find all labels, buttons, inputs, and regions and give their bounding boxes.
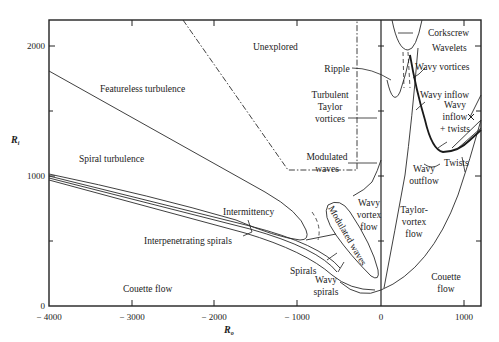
label-wavelets: Wavelets	[432, 43, 467, 53]
label-interpenetrating-spirals: Interpenetrating spirals	[144, 236, 232, 246]
label-spiral-turbulence: Spiral turbulence	[79, 154, 144, 164]
label-couette-flow-right: flow	[437, 284, 455, 294]
label-corkscrew: Corkscrew	[428, 28, 469, 38]
interpenetrating-line-3	[49, 180, 375, 290]
x-tick-label: − 1000	[284, 312, 310, 322]
y-tick-label: 2000	[27, 41, 46, 51]
label-wavy-vortices: Wavy vortices	[415, 62, 470, 72]
label-ripple: Ripple	[324, 64, 349, 74]
label-wavy-outflow: outflow	[409, 176, 439, 186]
label-taylor-vortex-flow: flow	[405, 229, 423, 239]
x-tick-label: − 3000	[119, 312, 145, 322]
label-wavy-inflow-twists: inflow	[443, 112, 468, 122]
label-taylor-vortex-flow: vortex	[402, 217, 427, 227]
label-twists: Twists	[444, 158, 469, 168]
label-couette-flow-left: Couette flow	[123, 284, 172, 294]
label-wavy-vortex-flow: Wavy	[358, 198, 380, 208]
label-wavy-outflow: Wavy	[413, 164, 435, 174]
y-tick-label: 0	[41, 301, 46, 311]
label-turbulent-taylor-vortices: Turbulent	[311, 90, 348, 100]
label-couette-flow-right: Couette	[431, 272, 461, 282]
x-tick-label: − 4000	[36, 312, 62, 322]
interpenetrating-line-1	[49, 176, 340, 268]
label-wavy-inflow-twists: Wavy	[444, 100, 466, 110]
x-tick-label: 0	[379, 312, 384, 322]
x-axis-title: Ro	[223, 324, 234, 336]
label-wavy-inflow-twists: + twists	[440, 124, 470, 134]
label-featureless-turbulence: Featureless turbulence	[100, 84, 185, 94]
label-turbulent-taylor-vortices: Taylor	[318, 102, 343, 112]
label-turbulent-taylor-vortices: vortices	[315, 114, 345, 124]
label-wavy-spirals: spirals	[314, 287, 339, 297]
label-modulated-waves: waves	[315, 164, 339, 174]
label-taylor-vortex-flow: Taylor-	[400, 205, 428, 215]
intermittency-tail	[306, 234, 336, 240]
ripple-curve	[392, 20, 422, 50]
label-wavy-vortex-flow: flow	[360, 222, 378, 232]
ripple-lower	[387, 55, 410, 97]
dashed-boundary	[312, 212, 319, 240]
label-wavy-spirals: Wavy	[315, 275, 337, 285]
y-axis-title: Ri	[10, 134, 20, 146]
regime-diagram: − 4000 − 3000 − 2000 − 1000 0 1000 0 100…	[0, 0, 499, 342]
label-wavy-vortex-flow: vortex	[357, 210, 382, 220]
label-unexplored: Unexplored	[253, 42, 298, 52]
label-modulated-waves: Modulated	[306, 152, 347, 162]
label-spirals: Spirals	[290, 266, 317, 276]
x-tick-label: − 2000	[201, 312, 227, 322]
twists-line-3	[470, 95, 481, 117]
x-tick-label: 1000	[455, 312, 474, 322]
label-intermittency: Intermittency	[223, 207, 274, 217]
label-wavy-inflow: Wavy inflow	[420, 90, 469, 100]
y-tick-label: 1000	[27, 171, 46, 181]
